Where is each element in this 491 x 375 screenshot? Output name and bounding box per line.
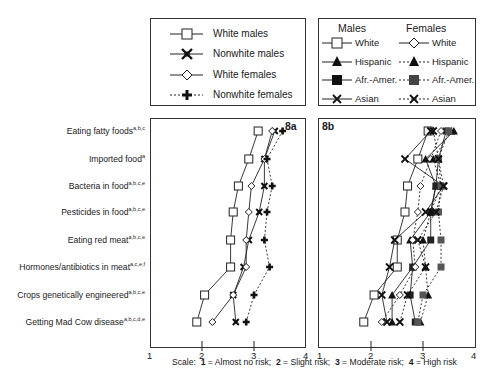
legend-b-males-header: Males [338, 22, 366, 34]
legend-b-male-afr-amer: Afr.-Amer. [355, 74, 397, 85]
legend-b-male-white: White [355, 37, 379, 48]
legend-b-female-asian: Asian [432, 93, 456, 104]
category-label: Getting Mad Cow diseasea,b,c,d,e [25, 316, 145, 327]
legend-a-label-white-females: White females [213, 69, 276, 80]
tick-a-1: 1 [147, 350, 152, 361]
panel-8a-label: 8a [285, 120, 297, 132]
panel-8a [150, 118, 306, 348]
legend-a-label-nonwhite-females: Nonwhite females [213, 89, 292, 100]
category-label: Eating red meata,b,c,e [68, 234, 145, 245]
category-label: Eating fatty foodsa,b,c [67, 125, 145, 136]
panel-8b [318, 118, 476, 348]
category-label: Crops genetically engineereda,b,c,e [17, 289, 145, 300]
legend-b-female-afr-amer: Afr.-Amer. [432, 74, 474, 85]
tick-b-4: 4 [471, 350, 476, 361]
legend-b-male-asian: Asian [355, 93, 379, 104]
legend-a-label-white-males: White males [213, 28, 268, 39]
legend-b-male-hispanic: Hispanic [355, 56, 391, 67]
category-label: Imported fooda [89, 153, 145, 164]
scale-note: Scale: 1 = Almost no risk; 2 = Slight ri… [172, 357, 457, 367]
legend-a-label-nonwhite-males: Nonwhite males [213, 48, 284, 59]
legend-b-female-white: White [432, 37, 456, 48]
legend-b-female-hispanic: Hispanic [432, 56, 468, 67]
category-label: Pesticides in fooda,b,c,e [61, 206, 145, 217]
category-label: Hormones/antibiotics in meata,c,e,f [19, 261, 145, 272]
legend-b-females-header: Females [406, 22, 446, 34]
panel-8b-label: 8b [322, 120, 334, 132]
category-label: Bacteria in fooda,b,c,e [69, 180, 145, 191]
